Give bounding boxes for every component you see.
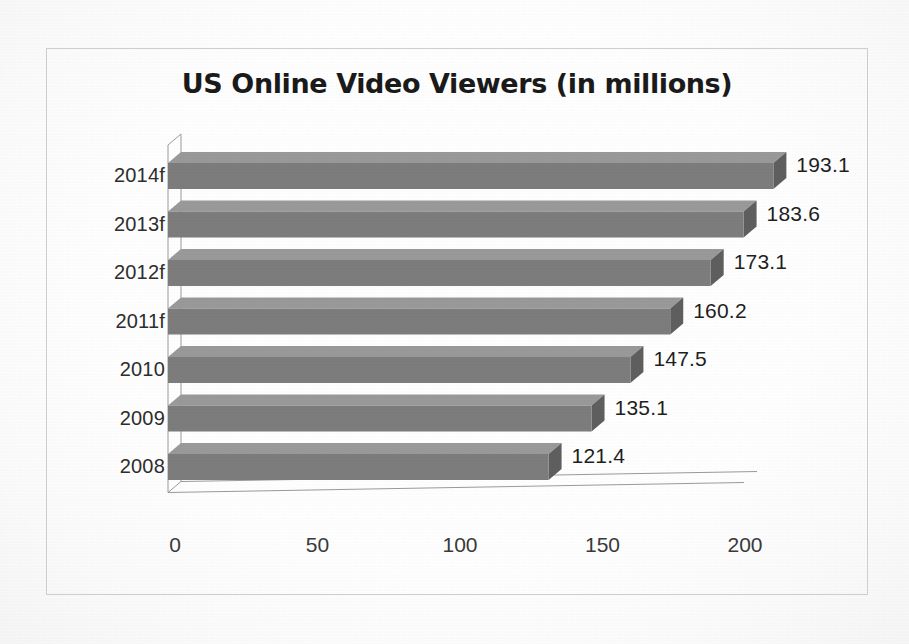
- bar-top-face: [168, 249, 724, 260]
- data-label-2009: 135.1: [615, 396, 669, 420]
- y-axis-label-2008: 2008: [120, 455, 165, 478]
- bar-2012f: [168, 249, 724, 286]
- y-axis-label-2011f: 2011f: [115, 310, 165, 333]
- bar-2011f: [168, 298, 683, 335]
- data-label-2008: 121.4: [572, 444, 626, 468]
- bar-2013f: [168, 201, 757, 238]
- bar-2008: [168, 443, 562, 480]
- bar-front-face: [168, 309, 670, 335]
- bar-front-face: [168, 163, 773, 189]
- bar-top-face: [168, 201, 757, 212]
- bar-2010: [168, 346, 643, 383]
- bar-front-face: [168, 212, 744, 238]
- data-label-2011f: 160.2: [693, 299, 747, 323]
- x-tick-0: 0: [169, 533, 181, 557]
- data-label-2010: 147.5: [653, 347, 707, 371]
- axis-floor-front-edge: [168, 483, 744, 493]
- y-axis-label-2014f: 2014f: [114, 164, 165, 187]
- bar-top-face: [168, 152, 786, 163]
- bar-top-face: [168, 346, 643, 357]
- axis-wall-bottom-depth: [168, 482, 181, 493]
- data-label-2013f: 183.6: [767, 202, 821, 226]
- x-tick-150: 150: [585, 533, 620, 557]
- data-label-2012f: 173.1: [734, 250, 788, 274]
- x-tick-50: 50: [306, 533, 329, 557]
- bar-front-face: [168, 260, 711, 286]
- axis-wall-top-depth: [168, 134, 181, 145]
- bar-2014f: [168, 152, 786, 189]
- y-axis-label-2010: 2010: [120, 358, 165, 381]
- bar-2009: [168, 395, 605, 432]
- bar-front-face: [168, 454, 549, 480]
- bar-top-face: [168, 395, 605, 406]
- y-axis-label-2013f: 2013f: [114, 213, 165, 236]
- x-tick-100: 100: [442, 533, 477, 557]
- chart-page: US Online Video Viewers (in millions) 20…: [0, 0, 909, 644]
- bar-front-face: [168, 357, 630, 383]
- bar-top-face: [168, 443, 562, 454]
- y-axis-label-2009: 2009: [120, 407, 165, 430]
- bar-front-face: [168, 406, 592, 432]
- data-label-2014f: 193.1: [796, 153, 850, 177]
- y-axis-label-2012f: 2012f: [114, 261, 165, 284]
- bar-top-face: [168, 298, 683, 309]
- x-tick-200: 200: [727, 533, 762, 557]
